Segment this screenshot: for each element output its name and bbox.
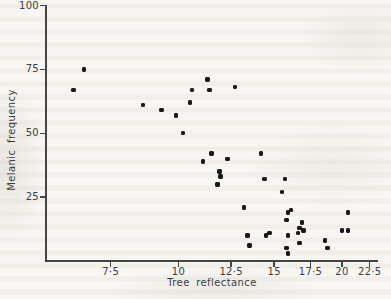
x-tick-label: 17·5 xyxy=(294,266,328,278)
data-point xyxy=(218,174,222,178)
x-tick-label: 10 xyxy=(162,266,196,278)
data-point xyxy=(205,77,209,81)
x-tick-label: 22·5 xyxy=(353,266,387,278)
data-point xyxy=(207,88,211,92)
data-point xyxy=(346,228,350,232)
data-point xyxy=(301,228,305,232)
y-tick-label: 25 xyxy=(13,191,39,203)
page-bleedthrough-texture xyxy=(0,0,391,299)
data-point xyxy=(209,151,213,155)
x-tick-label: 7·5 xyxy=(94,266,128,278)
y-tick-mark xyxy=(40,69,45,70)
data-point xyxy=(284,246,288,250)
data-point xyxy=(289,208,293,212)
data-point xyxy=(188,100,192,104)
data-point xyxy=(323,238,327,242)
data-point xyxy=(286,251,290,255)
y-axis-title: Melanic frequency xyxy=(6,89,17,190)
data-point xyxy=(71,88,75,92)
data-point xyxy=(325,246,329,250)
data-point xyxy=(242,205,246,209)
y-axis-line xyxy=(45,5,47,262)
data-point xyxy=(217,169,221,173)
y-tick-label: 50 xyxy=(13,127,39,139)
data-point xyxy=(297,241,301,245)
data-point xyxy=(159,108,163,112)
data-point xyxy=(82,67,86,71)
data-point xyxy=(201,159,205,163)
x-tick-label: 12·5 xyxy=(214,266,248,278)
y-tick-mark xyxy=(40,196,45,197)
data-point xyxy=(247,243,251,247)
scanned-book-page: Melanic frequency Tree reflectance 7·510… xyxy=(0,0,391,299)
y-tick-label: 100 xyxy=(13,0,39,12)
data-point xyxy=(225,157,229,161)
x-axis-title: Tree reflectance xyxy=(46,277,378,288)
data-point xyxy=(340,228,344,232)
data-point xyxy=(245,233,249,237)
y-tick-mark xyxy=(40,5,45,6)
data-point xyxy=(174,113,178,117)
x-tick-label: 15 xyxy=(257,266,291,278)
y-tick-label: 75 xyxy=(13,63,39,75)
data-point xyxy=(215,182,219,186)
x-axis-line xyxy=(45,260,378,262)
data-point xyxy=(284,218,288,222)
data-point xyxy=(286,233,290,237)
data-point xyxy=(346,210,350,214)
data-point xyxy=(267,231,271,235)
y-tick-mark xyxy=(40,133,45,134)
